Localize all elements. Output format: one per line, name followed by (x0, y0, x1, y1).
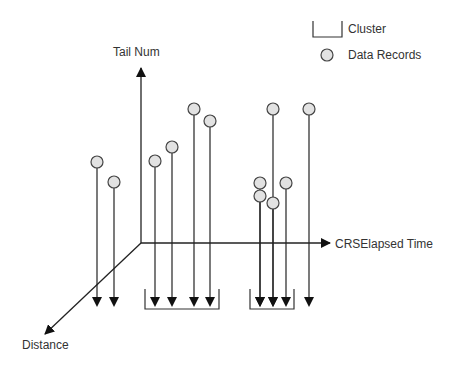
depth-axis (45, 243, 141, 334)
down-arrow-icon (167, 297, 177, 307)
projection-lines (92, 109, 314, 307)
down-arrow-icon (109, 297, 119, 307)
data-record-circle-icon (254, 177, 266, 189)
data-record-circle-icon (267, 103, 279, 115)
vertical-axis-label: Tail Num (113, 45, 160, 59)
down-arrow-icon (150, 297, 160, 307)
data-record-circle-icon (204, 115, 216, 127)
down-arrow-icon (189, 297, 199, 307)
down-arrow-icon (92, 297, 102, 307)
data-record-circle-icon (149, 155, 161, 167)
down-arrow-icon (304, 297, 314, 307)
down-arrow-icon (268, 297, 278, 307)
data-record-circle-icon (166, 141, 178, 153)
horizontal-axis-label: CRSElapsed Time (335, 237, 433, 251)
down-arrow-icon (281, 297, 291, 307)
data-record-circle-icon (280, 177, 292, 189)
legend-data-record-circle-icon (321, 49, 333, 61)
legend-data-records-label: Data Records (348, 48, 421, 62)
data-record-circle-icon (254, 190, 266, 202)
down-arrow-icon (255, 297, 265, 307)
depth-axis-label: Distance (22, 338, 69, 352)
data-record-circle-icon (108, 176, 120, 188)
down-arrow-icon (205, 297, 215, 307)
data-record-circle-icon (91, 156, 103, 168)
data-record-circle-icon (303, 103, 315, 115)
data-records (91, 103, 315, 209)
data-record-circle-icon (267, 197, 279, 209)
legend (313, 21, 342, 61)
legend-cluster-label: Cluster (348, 22, 386, 36)
legend-cluster-bracket-icon (313, 21, 342, 37)
data-record-circle-icon (188, 103, 200, 115)
